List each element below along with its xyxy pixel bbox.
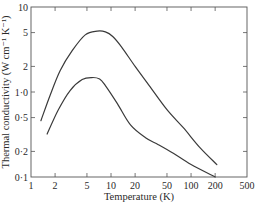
plot-border [31,7,247,177]
y-tick-label: 1·0 [15,87,28,98]
x-tick-label: 1 [29,180,34,191]
y-tick-label: 0·2 [15,146,28,157]
y-axis-title: Thermal conductivity (W cm⁻¹ K⁻¹) [0,15,12,169]
lower-curve [47,78,215,177]
x-tick-label: 2 [53,180,58,191]
upper-curve [41,31,217,165]
x-axis-ticks: 125102050100200500 [29,7,255,191]
x-tick-label: 100 [184,180,199,191]
x-axis-title: Temperature (K) [104,191,175,203]
plot-frame [31,7,247,177]
x-tick-label: 10 [106,180,116,191]
y-tick-label: 0·1 [15,172,28,183]
thermal-conductivity-chart: 125102050100200500 0·10·20·51·02510 Temp… [0,0,257,204]
x-tick-label: 500 [240,180,255,191]
x-tick-label: 200 [208,180,223,191]
data-curves [41,31,217,177]
x-tick-label: 5 [84,180,89,191]
y-tick-label: 2 [23,61,28,72]
y-tick-label: 10 [18,2,28,13]
x-tick-label: 20 [130,180,140,191]
y-tick-label: 5 [23,27,28,38]
y-axis-ticks: 0·10·20·51·02510 [15,2,247,183]
x-tick-label: 50 [162,180,172,191]
y-tick-label: 0·5 [15,112,28,123]
